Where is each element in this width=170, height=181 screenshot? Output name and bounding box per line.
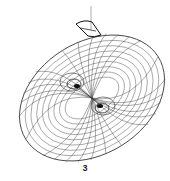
torus-wireframe — [0, 0, 170, 181]
torus-outline — [0, 9, 170, 181]
highlighted-patch — [76, 21, 101, 37]
panel-label: 3 — [0, 163, 170, 173]
hole-right — [91, 97, 115, 115]
central-axis — [78, 87, 99, 104]
